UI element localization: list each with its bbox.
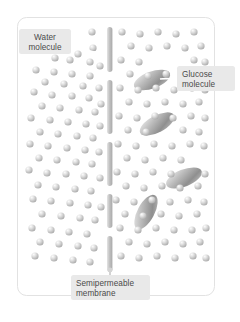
water-molecule [51,54,58,61]
label-membrane-line1: Semipermeable [76,279,134,288]
water-molecule [74,50,81,57]
water-molecule [90,244,97,251]
water-molecule [115,112,122,119]
water-molecule [153,252,160,259]
water-molecule [38,102,45,109]
figure-root: Water molecule Glucose molecule Semiperm… [0,0,240,322]
water-molecule [65,228,72,235]
label-water-molecule[interactable]: Water molecule [19,29,71,54]
water-molecule [179,240,186,247]
water-molecule [190,56,197,63]
water-molecule [87,187,94,194]
membrane-segment [107,236,112,272]
water-molecule [187,112,194,119]
water-molecule [26,140,33,147]
label-water-line1: Water [34,33,56,42]
water-molecule [197,42,204,49]
water-molecule [170,86,177,93]
water-molecule [50,254,57,261]
label-semipermeable-membrane[interactable]: Semipermeable membrane [71,275,150,300]
water-callout-dot [72,43,76,47]
water-molecule [177,156,184,163]
water-molecule [113,168,120,175]
water-molecule [114,140,121,147]
water-molecule [145,44,152,51]
water-molecule [175,212,182,219]
water-molecule [35,154,42,161]
water-molecule [176,184,183,191]
label-glucose-molecule[interactable]: Glucose molecule [177,66,235,91]
water-molecule [117,252,124,259]
water-molecule [200,198,207,205]
water-molecule [150,140,157,147]
water-molecule [68,92,75,99]
water-molecule [127,42,134,49]
water-molecule [152,224,159,231]
water-molecule [131,170,138,177]
water-molecule [32,66,39,73]
water-molecule [170,226,177,233]
membrane-segment [107,80,112,134]
water-molecule [31,252,38,259]
water-molecule [52,183,59,190]
water-molecule [161,238,168,245]
membrane-callout-dot [108,268,113,273]
water-molecule [97,203,104,210]
water-molecule [121,210,128,217]
water-molecule [62,170,69,177]
membrane-segment [107,142,112,186]
water-molecule [47,226,54,233]
water-molecule [124,126,131,133]
water-molecule [95,148,102,155]
water-molecule [71,185,78,192]
water-molecule [144,72,151,79]
membrane-segment [107,194,112,228]
water-molecule [34,181,41,188]
water-molecule [168,142,175,149]
water-molecule [154,28,161,35]
water-molecule [200,142,207,149]
water-molecule [134,86,141,93]
water-molecule [188,226,195,233]
water-molecule [53,156,60,163]
water-molecule [179,100,186,107]
label-membrane-line2: membrane [76,289,116,298]
water-molecule [184,196,191,203]
water-molecule [46,116,53,123]
water-molecule [162,70,169,77]
water-molecule [167,170,174,177]
water-molecule [76,214,83,221]
water-molecule [82,120,89,127]
water-molecule [73,132,80,139]
membrane-segment [107,27,112,72]
water-molecule [96,62,103,69]
water-molecule [86,58,93,65]
water-molecule [143,240,150,247]
water-molecule [64,118,71,125]
label-water-line2: molecule [28,43,62,52]
water-molecule [116,224,123,231]
water-molecule [172,30,179,37]
water-molecule [56,104,63,111]
water-molecule [48,91,55,98]
water-molecule [55,240,62,247]
water-molecule [202,224,209,231]
water-molecule [169,114,176,121]
water-molecule [201,58,208,65]
water-molecule [151,112,158,119]
water-molecule [181,44,188,51]
water-molecule [161,98,168,105]
water-molecule [91,108,98,115]
water-molecule [140,184,147,191]
water-molecule [143,100,150,107]
water-molecule [57,212,64,219]
water-molecule [79,82,86,89]
water-molecule [118,28,125,35]
water-molecule [69,256,76,263]
water-molecule [135,58,142,65]
water-molecule [96,122,103,129]
water-molecule [80,172,87,179]
water-molecule [95,84,102,91]
water-molecule [201,114,208,121]
diagram-panel [18,18,215,296]
